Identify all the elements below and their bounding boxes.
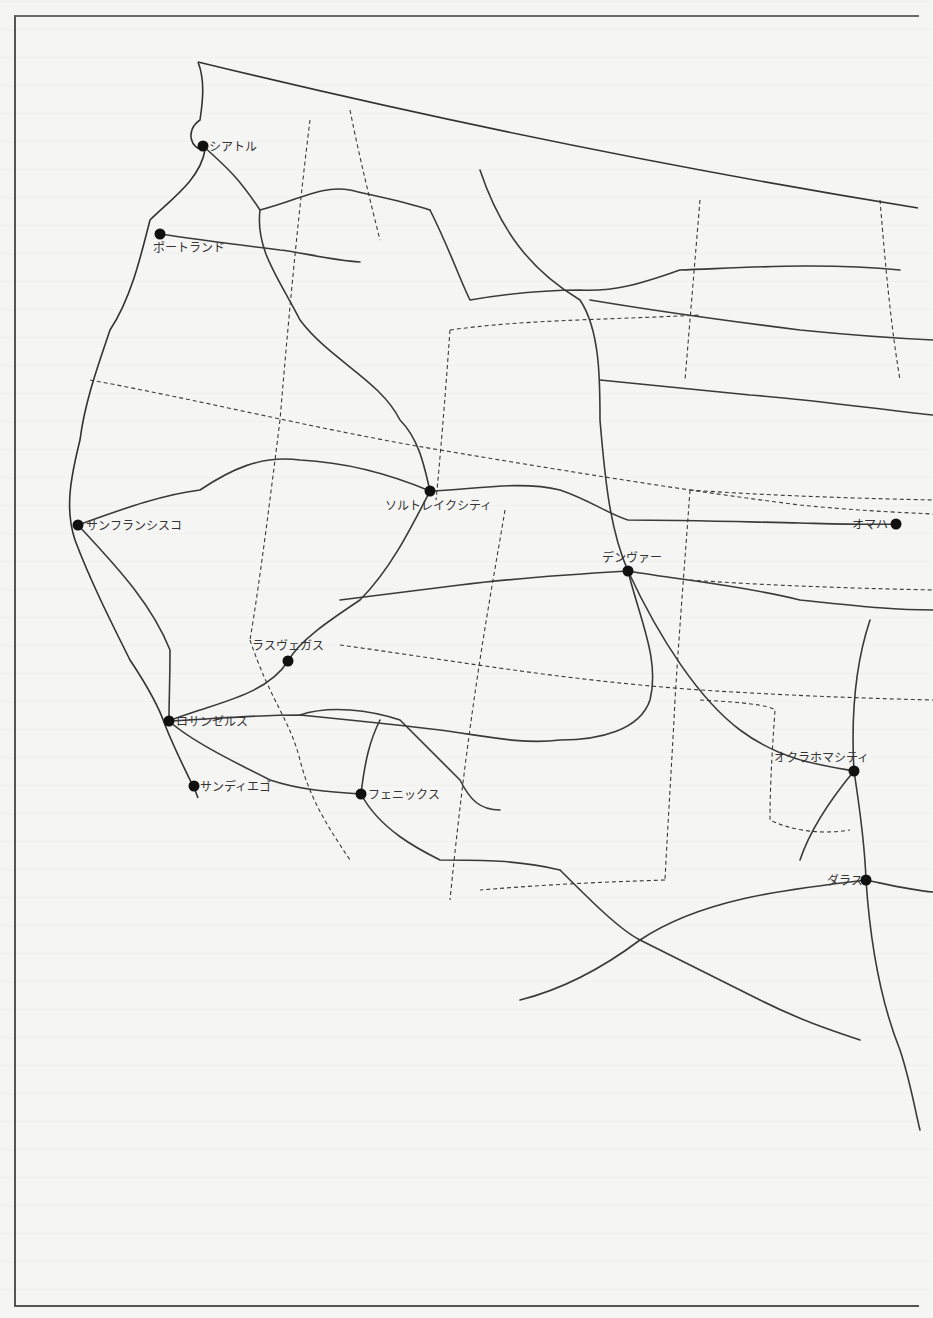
state-border-line bbox=[450, 315, 700, 330]
state-border-line bbox=[250, 640, 350, 860]
state-border-line bbox=[450, 510, 505, 900]
city-salt-lake-city: ソルトレイクシティ bbox=[385, 486, 492, 514]
rail-route-line bbox=[520, 880, 866, 1000]
city-label: サンディエゴ bbox=[200, 779, 271, 794]
rail-route-line bbox=[590, 300, 933, 340]
rail-route-line bbox=[640, 940, 860, 1040]
city-label: ロサンゼルス bbox=[176, 715, 248, 729]
city-label: デンヴァー bbox=[602, 550, 662, 565]
rail-routes bbox=[78, 146, 933, 1130]
state-border-line bbox=[250, 420, 280, 640]
city-marker-icon bbox=[283, 656, 294, 667]
rail-route-line bbox=[853, 620, 870, 771]
city-label: シアトル bbox=[209, 140, 257, 154]
city-marker-icon bbox=[189, 781, 200, 792]
city-marker-icon bbox=[198, 141, 209, 152]
rail-route-line bbox=[430, 210, 900, 300]
rail-route-line bbox=[288, 491, 430, 661]
city-las-vegas: ラスヴェガス bbox=[252, 638, 324, 667]
city-label: ソルトレイクシティ bbox=[385, 499, 492, 513]
city-phoenix: フェニックス bbox=[356, 788, 441, 802]
rail-route-line bbox=[560, 870, 640, 940]
rail-route-line bbox=[203, 146, 430, 210]
pacific-coastline bbox=[70, 62, 205, 798]
rail-route-line bbox=[854, 771, 866, 880]
city-marker-icon bbox=[425, 486, 436, 497]
city-label: オマハ bbox=[852, 518, 888, 532]
city-portland: ポートランド bbox=[153, 229, 225, 256]
city-label: ダラス bbox=[827, 873, 863, 888]
state-border-line bbox=[350, 110, 380, 240]
rail-route-line bbox=[78, 459, 430, 525]
rail-route-line bbox=[628, 571, 933, 610]
rail-route-line bbox=[430, 486, 896, 525]
city-label: オクラホマシティ bbox=[774, 751, 869, 765]
rail-route-line bbox=[628, 571, 854, 771]
rail-route-line bbox=[866, 880, 933, 892]
state-border-line bbox=[880, 200, 900, 380]
state-border-line bbox=[665, 700, 675, 880]
city-label: サンフランシスコ bbox=[86, 519, 182, 533]
city-marker-icon bbox=[356, 789, 367, 800]
city-label: ラスヴェガス bbox=[252, 638, 324, 653]
state-border-line bbox=[340, 645, 933, 700]
city-marker-icon bbox=[155, 229, 166, 240]
state-border-line bbox=[436, 330, 450, 500]
rail-route-line bbox=[361, 794, 560, 870]
city-label: フェニックス bbox=[368, 788, 440, 802]
city-dallas: ダラス bbox=[827, 873, 872, 888]
city-marker-icon bbox=[73, 520, 84, 531]
cities: シアトルポートランドサンフランシスコソルトレイクシティデンヴァーオマハラスヴェガ… bbox=[73, 140, 902, 888]
state-border-line bbox=[280, 120, 310, 420]
city-omaha: オマハ bbox=[852, 518, 902, 532]
rail-route-line bbox=[340, 571, 628, 600]
city-marker-icon bbox=[164, 716, 175, 727]
state-border-line bbox=[685, 200, 700, 380]
rail-route-line bbox=[169, 661, 288, 721]
city-label: ポートランド bbox=[153, 241, 225, 255]
city-marker-icon bbox=[891, 519, 902, 530]
city-oklahoma-city: オクラホマシティ bbox=[774, 751, 869, 777]
city-san-diego: サンディエゴ bbox=[189, 779, 272, 794]
rail-route-line bbox=[361, 720, 380, 794]
rail-route-line bbox=[600, 380, 933, 415]
city-marker-icon bbox=[849, 766, 860, 777]
rail-route-line bbox=[78, 525, 170, 721]
city-san-francisco: サンフランシスコ bbox=[73, 519, 183, 533]
city-los-angeles: ロサンゼルス bbox=[164, 715, 249, 729]
city-seattle: シアトル bbox=[198, 140, 258, 154]
canada-border bbox=[198, 62, 918, 208]
rail-route-line bbox=[866, 880, 920, 1130]
rail-route-line bbox=[800, 771, 854, 860]
rail-route-line bbox=[259, 210, 430, 491]
rail-map: シアトルポートランドサンフランシスコソルトレイクシティデンヴァーオマハラスヴェガ… bbox=[0, 0, 933, 1318]
city-marker-icon bbox=[623, 566, 634, 577]
